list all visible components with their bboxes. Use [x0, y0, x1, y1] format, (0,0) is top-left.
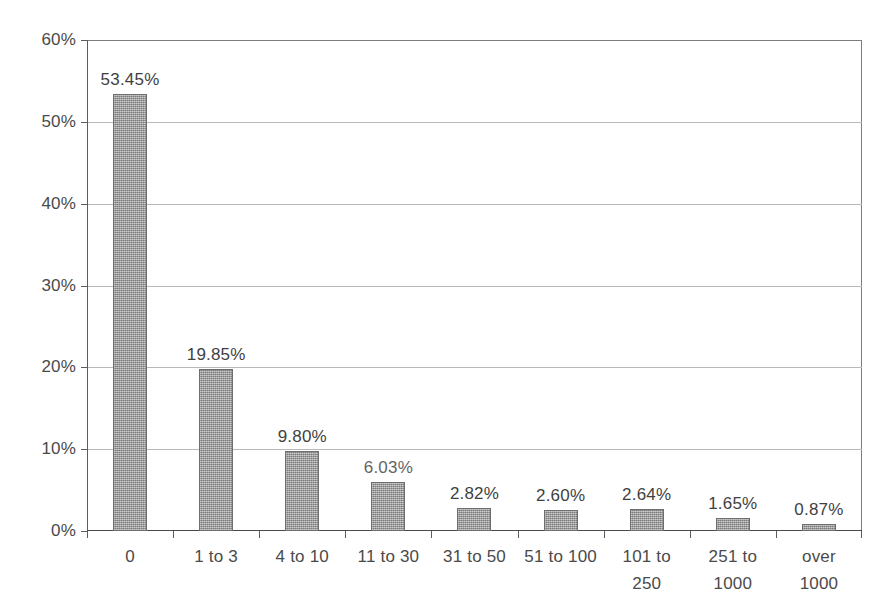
bar-category-slot: 9.80%: [259, 40, 345, 531]
x-axis-label-line2: 250: [622, 570, 670, 597]
bar-category-slot: 6.03%: [345, 40, 431, 531]
x-axis-tick: [690, 531, 691, 538]
x-axis-label: 101 to250: [622, 543, 670, 597]
x-axis-tick: [87, 531, 88, 538]
bar[interactable]: [113, 94, 147, 531]
x-axis-tick: [431, 531, 432, 538]
bar-category-slot: 0.87%: [776, 40, 862, 531]
bar[interactable]: [716, 518, 750, 532]
x-axis-tick: [861, 531, 862, 538]
bar[interactable]: [285, 451, 319, 531]
x-axis-label: 251 to1000: [709, 543, 757, 597]
x-axis-tick: [776, 531, 777, 538]
x-axis-label: 31 to 50: [443, 543, 506, 570]
bar-value-label: 53.45%: [101, 70, 160, 90]
y-axis-label: 10%: [41, 439, 76, 459]
x-axis-label: 0: [125, 543, 135, 570]
bar-value-label: 1.65%: [708, 494, 757, 514]
x-axis-label: 1 to 3: [194, 543, 238, 570]
bar[interactable]: [457, 508, 491, 531]
x-axis-label-line1: 51 to 100: [524, 547, 597, 566]
x-axis-label-line1: 1 to 3: [194, 547, 238, 566]
x-axis-tick: [345, 531, 346, 538]
bar-value-label: 2.64%: [622, 485, 671, 505]
x-axis-label: 11 to 30: [357, 543, 419, 570]
bar-category-slot: 2.82%: [431, 40, 517, 531]
bar[interactable]: [544, 510, 578, 531]
bar[interactable]: [199, 369, 233, 531]
x-axis-label: 51 to 100: [524, 543, 597, 570]
y-axis-label: 50%: [41, 112, 76, 132]
bar-category-slot: 1.65%: [690, 40, 776, 531]
bar-value-label: 0.87%: [794, 500, 843, 520]
bar-value-label: 6.03%: [364, 458, 413, 478]
bar-value-label: 2.82%: [450, 484, 499, 504]
bar-category-slot: 19.85%: [173, 40, 259, 531]
x-axis-tick: [604, 531, 605, 538]
x-axis-label: 4 to 10: [276, 543, 329, 570]
x-axis-label-line2: 1000: [709, 570, 757, 597]
bar-category-slot: 2.64%: [604, 40, 690, 531]
y-axis-label: 0%: [51, 521, 76, 541]
x-axis-label-line1: 4 to 10: [276, 547, 329, 566]
x-axis-label-line1: 31 to 50: [443, 547, 506, 566]
bar-value-label: 9.80%: [278, 427, 327, 447]
x-axis-tick: [173, 531, 174, 538]
bar-category-slot: 53.45%: [87, 40, 173, 531]
x-axis-label: over1000: [800, 543, 839, 597]
x-axis-label-line1: 11 to 30: [357, 547, 419, 566]
bar[interactable]: [630, 509, 664, 531]
x-axis-label-line2: 1000: [800, 570, 839, 597]
y-axis-label: 40%: [41, 194, 76, 214]
x-axis-label-line1: 0: [125, 547, 135, 566]
bar-category-slot: 2.60%: [518, 40, 604, 531]
y-axis-label: 20%: [41, 357, 76, 377]
bar-value-label: 2.60%: [536, 486, 585, 506]
bar-value-label: 19.85%: [187, 345, 246, 365]
bar[interactable]: [802, 524, 836, 531]
x-axis-label-line1: 101 to: [622, 547, 670, 566]
y-axis-label: 60%: [41, 30, 76, 50]
x-axis-tick: [518, 531, 519, 538]
x-axis-label-line1: over: [802, 547, 836, 566]
bar[interactable]: [371, 482, 405, 531]
x-axis-tick: [259, 531, 260, 538]
x-axis-label-line1: 251 to: [709, 547, 757, 566]
bar-chart-figure: 0%10%20%30%40%50%60% 53.45%19.85%9.80%6.…: [0, 0, 894, 612]
y-axis-label: 30%: [41, 276, 76, 296]
plot-area: 0%10%20%30%40%50%60% 53.45%19.85%9.80%6.…: [87, 40, 862, 531]
